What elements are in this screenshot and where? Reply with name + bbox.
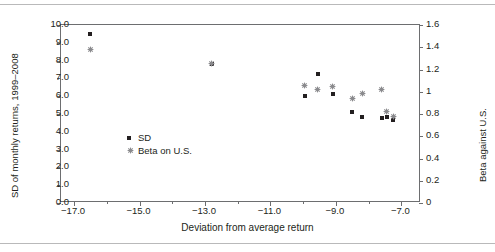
y-axis-right-tick-label: 1 [426,86,466,96]
legend-label-sd: SD [138,131,151,144]
data-point-sd [303,94,307,98]
y-axis-right-tick-label: 0.6 [426,130,466,140]
data-point-sd [380,116,384,120]
plot-area: SD Beta on U.S. [60,24,420,202]
y-axis-left-tick-label: 7.0 [29,72,69,82]
legend-item-sd: SD [127,131,192,144]
y-axis-right-tick [419,136,423,137]
data-point-sd [360,115,364,119]
y-axis-right-tick-label: 0.2 [426,175,466,185]
data-point-beta [349,95,356,102]
y-axis-left-tick-label: 6.0 [29,90,69,100]
y-axis-right-tick [419,114,423,115]
x-axis-tick-label: −11.0 [239,206,299,216]
data-point-beta [359,90,366,97]
y-axis-right-tick [419,181,423,182]
y-axis-left-tick-label: 3.0 [29,144,69,154]
y-axis-right-tick-label: 1.6 [426,19,466,29]
x-axis-minor-tick [107,201,108,204]
data-point-beta [314,86,321,93]
legend-item-beta: Beta on U.S. [127,144,192,157]
x-axis-tick-label: −13.0 [174,206,234,216]
y-axis-left-tick-label: 5.0 [29,108,69,118]
sd-square-marker-icon [127,136,138,140]
y-axis-left-tick-label: 10.0 [29,19,69,29]
beta-asterisk-marker-icon [127,147,138,154]
y-axis-right-tick [419,159,423,160]
y-axis-right-title: Beta against U.S. [466,30,480,200]
data-point-beta [378,86,385,93]
x-axis-title: Deviation from average return [0,222,495,233]
figure-container: SD of monthly returns, 1999–2008 Beta ag… [0,0,495,252]
data-point-sd [350,110,354,114]
x-axis-tick-label: −15.0 [109,206,169,216]
top-divider-rule [0,4,495,5]
y-axis-right-tick-label: 0.4 [426,153,466,163]
y-axis-right-tick [419,25,423,26]
x-axis-tick-label: −9.0 [305,206,365,216]
x-axis-minor-tick [172,201,173,204]
y-axis-right-tick [419,70,423,71]
y-axis-left-tick-label: 9.0 [29,37,69,47]
data-point-beta [329,83,336,90]
y-axis-left-tick-label: 2.0 [29,161,69,171]
x-axis-title-text: Deviation from average return [181,222,313,233]
y-axis-right-tick [419,203,423,204]
y-axis-right-tick [419,47,423,48]
y-axis-left-tick-label: 8.0 [29,55,69,65]
y-axis-right-tick-label: 0 [426,197,466,207]
y-axis-left-tick-label: 4.0 [29,126,69,136]
y-axis-right-tick [419,92,423,93]
bottom-divider-rule [0,243,495,244]
x-axis-tick-label: −7.0 [370,206,430,216]
data-point-beta [87,46,94,53]
y-axis-left-title-text: SD of monthly returns, 1999–2008 [9,53,20,198]
x-axis-minor-tick [238,201,239,204]
y-axis-right-title-text: Beta against U.S. [477,108,488,182]
data-point-beta [390,113,397,120]
y-axis-left-title: SD of monthly returns, 1999–2008 [0,22,12,202]
data-point-beta [208,60,215,67]
y-axis-right-tick-label: 0.8 [426,108,466,118]
x-axis-minor-tick [303,201,304,204]
y-axis-right-tick-label: 1.2 [426,64,466,74]
y-axis-left-tick-label: 1.0 [29,179,69,189]
x-axis-tick-label: −17.0 [43,206,103,216]
data-point-sd [88,32,92,36]
y-axis-right-tick-label: 1.4 [426,41,466,51]
chart-legend: SD Beta on U.S. [127,131,192,157]
legend-label-beta: Beta on U.S. [138,144,192,157]
data-point-beta [301,82,308,89]
x-axis-minor-tick [369,201,370,204]
data-point-sd [316,72,320,76]
data-point-sd [331,92,335,96]
